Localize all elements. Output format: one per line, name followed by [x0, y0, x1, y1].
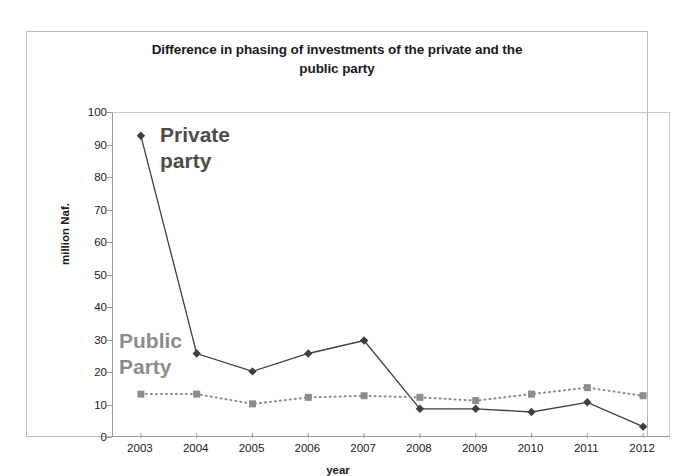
data-point-marker — [305, 394, 312, 401]
x-tick-label: 2010 — [501, 442, 561, 454]
data-point-marker — [248, 367, 256, 375]
data-point-marker — [249, 400, 256, 407]
x-tick-label: 2008 — [389, 442, 449, 454]
series-annotation-private-party: Private party — [160, 122, 230, 174]
data-point-marker — [137, 391, 144, 398]
data-point-marker — [137, 132, 145, 140]
x-tick-label: 2007 — [333, 442, 393, 454]
series-line-public-party — [141, 388, 643, 404]
data-point-marker — [361, 392, 368, 399]
x-tick-label: 2005 — [222, 442, 282, 454]
y-axis-tick-marks — [27, 112, 117, 437]
data-point-marker — [304, 349, 312, 357]
data-point-marker — [640, 392, 647, 399]
x-tick-label: 2006 — [277, 442, 337, 454]
chart-container: Difference in phasing of investments of … — [26, 31, 648, 437]
x-tick-label: 2012 — [612, 442, 672, 454]
data-point-marker — [193, 391, 200, 398]
chart-title-line-2: public party — [27, 59, 647, 78]
data-point-marker — [416, 394, 423, 401]
x-axis-title: year — [27, 464, 649, 476]
chart-title: Difference in phasing of investments of … — [27, 40, 647, 78]
x-tick-label: 2003 — [110, 442, 170, 454]
data-point-marker — [527, 408, 535, 416]
x-tick-label: 2011 — [556, 442, 616, 454]
series-annotation-public-party: Public Party — [119, 328, 182, 380]
x-tick-label: 2009 — [445, 442, 505, 454]
y-tick-mark — [107, 437, 112, 438]
data-point-marker — [193, 349, 201, 357]
data-point-marker — [584, 384, 591, 391]
series-line-private-party — [141, 136, 643, 427]
chart-title-line-1: Difference in phasing of investments of … — [27, 40, 647, 59]
data-point-marker — [472, 397, 479, 404]
data-point-marker — [472, 405, 480, 413]
x-tick-label: 2004 — [166, 442, 226, 454]
x-axis-tick-labels: 2003200420052006200720082009201020112012 — [112, 442, 670, 462]
data-point-marker — [528, 391, 535, 398]
data-point-marker — [583, 398, 591, 406]
data-point-marker — [639, 422, 647, 430]
